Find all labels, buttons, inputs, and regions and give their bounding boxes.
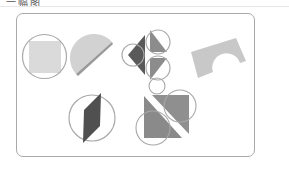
triangles-in-circles-figure <box>122 30 170 80</box>
square-in-circle-figure <box>23 35 67 79</box>
half-disc-figure <box>70 34 113 76</box>
parallelogram-in-circle-figure <box>69 93 115 143</box>
shapes-figure <box>0 0 289 171</box>
split-square-figure <box>136 78 196 145</box>
arch-block-figure <box>191 38 246 78</box>
